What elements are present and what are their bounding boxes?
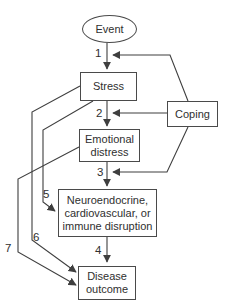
diagram-canvas: Event Stress Coping Emotional distress N… <box>0 0 227 307</box>
node-physiological-disruption-line3: immune disruption <box>63 220 153 233</box>
edge-label-4: 4 <box>95 244 101 256</box>
node-coping: Coping <box>167 101 218 127</box>
node-physiological-disruption-line2: cardiovascular, or <box>64 207 150 220</box>
node-disease-outcome-line2: outcome <box>86 283 128 296</box>
edge-label-2: 2 <box>96 107 102 119</box>
node-emotional-distress: Emotional distress <box>79 129 140 162</box>
node-emotional-distress-line2: distress <box>91 146 129 159</box>
edge-label-5: 5 <box>43 188 49 200</box>
node-stress: Stress <box>80 72 137 101</box>
node-emotional-distress-line1: Emotional <box>85 133 134 146</box>
edge-label-1: 1 <box>95 47 101 59</box>
connector-stress-disease-direct <box>32 86 80 272</box>
node-disease-outcome: Disease outcome <box>78 266 136 300</box>
edge-label-3: 3 <box>97 166 103 178</box>
node-event: Event <box>82 15 137 43</box>
node-disease-outcome-line1: Disease <box>87 270 127 283</box>
node-physiological-disruption-line1: Neuroendocrine, <box>67 194 148 207</box>
node-coping-label: Coping <box>175 108 210 121</box>
node-stress-label: Stress <box>93 80 124 93</box>
node-event-label: Event <box>95 23 123 36</box>
node-physiological-disruption: Neuroendocrine, cardiovascular, or immun… <box>58 189 157 237</box>
edge-label-6: 6 <box>33 231 39 243</box>
edge-label-7: 7 <box>5 242 11 254</box>
